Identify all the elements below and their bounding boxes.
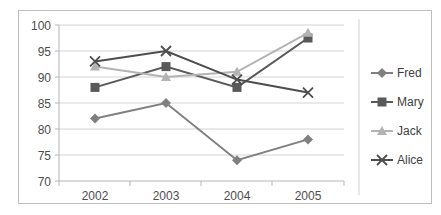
chart-legend: FredMaryJackAlice — [371, 66, 424, 167]
gridlines — [59, 25, 344, 155]
y-axis-tick-70: 70 — [38, 175, 52, 189]
x-axis: 2002 2003 2004 2005 — [59, 181, 344, 203]
datapoint-mary-2002 — [91, 83, 100, 92]
x-axis-tick-2004: 2004 — [224, 189, 251, 203]
series-line-fred — [95, 103, 308, 160]
datapoint-mary-2003 — [162, 62, 171, 71]
y-axis-tick-90: 90 — [38, 71, 52, 85]
datapoint-fred-2005 — [303, 134, 313, 144]
legend-label-mary: Mary — [397, 95, 424, 109]
datapoint-mary-2004 — [233, 83, 242, 92]
x-axis-tick-2003: 2003 — [153, 189, 180, 203]
legend-item-fred[interactable]: Fred — [371, 66, 422, 80]
y-axis-tick-75: 75 — [38, 149, 52, 163]
series-alice — [90, 46, 313, 98]
datapoint-fred-2002 — [90, 114, 100, 124]
datapoint-jack-2005 — [303, 28, 313, 37]
legend-label-jack: Jack — [397, 124, 423, 138]
y-axis: 100 95 90 85 80 75 70 — [31, 19, 59, 189]
series-line-jack — [95, 33, 308, 77]
series-line-mary — [95, 38, 308, 87]
x-axis-tick-2005: 2005 — [295, 189, 322, 203]
legend-item-mary[interactable]: Mary — [371, 95, 424, 109]
y-axis-tick-80: 80 — [38, 123, 52, 137]
chart-container: 100 95 90 85 80 75 70 2002 2003 2004 200… — [18, 10, 432, 204]
series-mary — [91, 34, 313, 92]
legend-item-jack[interactable]: Jack — [371, 124, 423, 138]
line-chart: 100 95 90 85 80 75 70 2002 2003 2004 200… — [19, 11, 431, 203]
legend-marker-fred — [377, 68, 387, 78]
y-axis-tick-85: 85 — [38, 97, 52, 111]
series-layer — [90, 28, 313, 165]
y-axis-tick-100: 100 — [31, 19, 51, 33]
legend-item-alice[interactable]: Alice — [371, 153, 423, 167]
legend-marker-mary — [378, 98, 387, 107]
legend-label-fred: Fred — [397, 66, 422, 80]
series-jack — [90, 28, 313, 81]
legend-label-alice: Alice — [397, 153, 423, 167]
y-axis-tick-95: 95 — [38, 45, 52, 59]
x-axis-tick-2002: 2002 — [82, 189, 109, 203]
